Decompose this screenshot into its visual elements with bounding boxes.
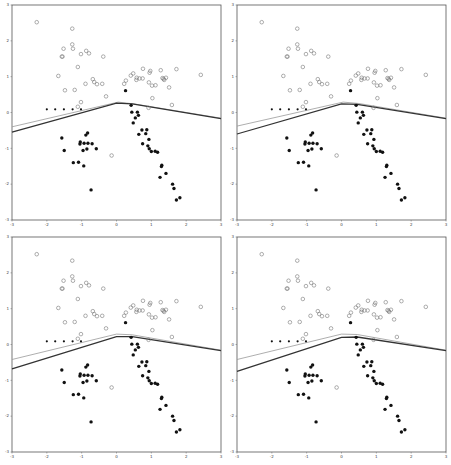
filled-point [63,149,66,152]
scatter-plot: -3-2-10123-3-2-10123 [225,232,450,464]
small-filled-point [271,108,273,110]
filled-point [396,182,399,185]
filled-point [172,187,175,190]
y-tick-label: -1 [5,378,9,383]
y-tick-label: 0 [6,110,9,115]
y-tick-label: 2 [6,38,9,43]
filled-point [86,142,89,145]
filled-point [365,128,368,131]
filled-point [354,104,357,107]
x-tick-label: -2 [270,222,274,227]
small-filled-point [72,108,74,110]
filled-point [369,132,372,135]
filled-point [124,321,127,324]
filled-point [403,196,406,199]
filled-point [72,393,75,396]
filled-point [85,379,88,382]
panel-bottom-left: -3-2-10123-3-2-10123 [0,232,225,465]
panel-bottom-right: -3-2-10123-3-2-10123 [225,232,450,465]
y-tick-label: -1 [230,146,234,151]
filled-point [389,172,392,175]
filled-point [383,176,386,179]
small-filled-point [46,108,48,110]
filled-point [81,381,84,384]
small-filled-point [63,108,65,110]
filled-point [288,381,291,384]
filled-point [303,374,306,377]
filled-point [302,393,305,396]
filled-point [375,150,378,153]
filled-point [85,147,88,150]
filled-point [365,360,368,363]
filled-point [306,381,309,384]
filled-point [372,138,375,141]
filled-point [307,396,310,399]
filled-point [397,187,400,190]
filled-point [148,379,151,382]
filled-point [81,149,84,152]
small-filled-point [288,108,290,110]
x-tick-label: 3 [220,222,223,227]
filled-point [303,142,306,145]
small-filled-point [80,340,82,342]
y-tick-label: 3 [6,234,9,239]
filled-point [141,374,144,377]
filled-point [306,149,309,152]
filled-point [95,379,98,382]
y-tick-label: 0 [231,110,234,115]
filled-point [373,147,376,150]
small-filled-point [54,108,56,110]
x-tick-label: 2 [410,222,413,227]
small-filled-point [80,108,82,110]
filled-point [285,136,288,139]
y-tick-label: 1 [6,306,9,311]
filled-point [311,142,314,145]
bottom-noise-strip [0,456,451,465]
filled-point [369,364,372,367]
filled-point [403,428,406,431]
filled-point [354,336,357,339]
x-tick-label: -1 [80,222,84,227]
filled-point [82,374,85,377]
filled-point [136,342,139,345]
filled-point [150,382,153,385]
filled-point [147,138,150,141]
x-tick-label: -3 [10,222,14,227]
filled-point [90,374,93,377]
y-tick-label: 0 [6,342,9,347]
small-filled-point [54,340,56,342]
plot-frame [12,5,221,220]
filled-point [134,116,137,119]
x-tick-label: -3 [235,222,239,227]
y-tick-label: -1 [230,378,234,383]
filled-point [77,393,80,396]
filled-point [175,430,178,433]
filled-point [315,142,318,145]
filled-point [320,147,323,150]
filled-point [311,363,314,366]
y-tick-label: -2 [5,413,9,418]
small-filled-point [63,340,65,342]
panel-top-left: -3-2-10123-3-2-10123 [0,0,225,236]
filled-point [77,161,80,164]
filled-point [78,374,81,377]
y-tick-label: 2 [231,38,234,43]
small-filled-point [305,108,307,110]
filled-point [314,420,317,423]
filled-point [320,379,323,382]
filled-point [311,131,314,134]
filled-point [355,342,358,345]
filled-point [78,142,81,145]
filled-point [156,151,159,154]
filled-point [148,147,151,150]
filled-point [297,161,300,164]
small-filled-point [46,340,48,342]
panel-top-right: -3-2-10123-3-2-10123 [225,0,450,236]
y-tick-label: -3 [230,449,234,454]
filled-point [285,368,288,371]
x-tick-label: -2 [45,222,49,227]
filled-point [147,370,150,373]
filled-point [311,374,314,377]
filled-point [375,382,378,385]
filled-point [60,368,63,371]
